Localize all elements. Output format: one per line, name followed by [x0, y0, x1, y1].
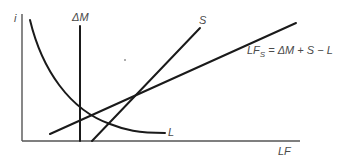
s-line-label: S: [199, 14, 207, 26]
delta-m-label: ΔM: [71, 11, 89, 23]
lfs-label-equation: = ΔM + S − L: [265, 44, 333, 56]
loanable-funds-diagram: i LF ΔM L S LFS = ΔM + S − L: [0, 0, 344, 159]
y-axis-label: i: [14, 12, 17, 24]
lfs-line-label: LFS = ΔM + S − L: [247, 44, 333, 59]
stray-dot: [124, 59, 126, 61]
x-axis-label: LF: [278, 145, 292, 157]
s-line: [92, 28, 200, 141]
lfs-line: [50, 23, 296, 134]
l-curve: [30, 20, 165, 133]
l-curve-label: L: [168, 126, 174, 138]
